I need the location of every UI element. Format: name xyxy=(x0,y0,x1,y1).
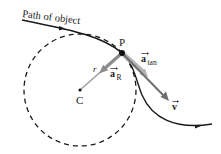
path-direction-arrow-icon xyxy=(59,26,65,31)
a-tan-label: a tan xyxy=(141,52,157,67)
path-label: Path of object xyxy=(22,8,81,26)
svg-text:a: a xyxy=(141,53,146,64)
a-radial-label: a R xyxy=(110,67,122,82)
motion-diagram: Path of object P C r a R a tan v xyxy=(0,0,221,154)
point-p-label: P xyxy=(119,36,125,48)
svg-text:v: v xyxy=(172,101,177,112)
velocity-label: v xyxy=(172,100,179,112)
center-c-label: C xyxy=(76,94,83,106)
svg-text:R: R xyxy=(117,73,122,82)
point-c xyxy=(78,88,81,91)
svg-text:a: a xyxy=(110,68,115,79)
radius-label: r xyxy=(93,64,97,74)
point-p xyxy=(119,50,125,56)
svg-text:tan: tan xyxy=(148,58,157,67)
a-radial-vector xyxy=(104,53,122,69)
